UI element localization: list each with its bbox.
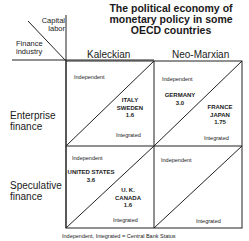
corner-capital-labor-label: Capital labor xyxy=(40,17,65,33)
row-header-speculative-finance: Speculative finance xyxy=(10,180,62,202)
cell-label-integrated: Integrated xyxy=(204,135,229,141)
country-value: 1.6 xyxy=(110,112,150,120)
country-value: 1.75 xyxy=(200,119,240,127)
column-header-kaleckian: Kaleckian xyxy=(87,49,130,60)
corner-text: industry xyxy=(16,48,43,56)
row-text: Speculative xyxy=(10,180,62,191)
country-name: UNITED STATES xyxy=(64,169,118,177)
cell-label-integrated: Integrated xyxy=(113,217,138,223)
countries-united-states: UNITED STATES 3.6 xyxy=(64,169,118,184)
country-value: 3.6 xyxy=(64,177,118,185)
countries-italy-sweden: ITALY SWEDEN 1.6 xyxy=(110,97,150,120)
cell-label-independent: Independent xyxy=(161,157,192,163)
row-header-enterprise-finance: Enterprise finance xyxy=(10,110,56,132)
country-name: GERMANY xyxy=(160,92,200,100)
corner-finance-industry-label: Finance industry xyxy=(16,40,43,56)
cell-label-independent: Independent xyxy=(162,76,193,82)
countries-france-japan: FRANCE JAPAN 1.75 xyxy=(200,104,240,127)
cell-label-integrated: Integrated xyxy=(116,132,141,138)
column-header-neo-marxian: Neo-Marxian xyxy=(172,49,229,60)
country-name: SWEDEN xyxy=(110,105,150,113)
cell-label-independent: Independent xyxy=(72,155,103,161)
country-value: 1.6 xyxy=(110,202,146,210)
cell-label-independent: Independent xyxy=(74,74,105,80)
corner-text: labor xyxy=(40,25,65,33)
title-line: OECD countries xyxy=(98,25,244,36)
country-name: CANADA xyxy=(110,195,146,203)
row-text: finance xyxy=(10,121,56,132)
countries-uk-canada: U. K. CANADA 1.6 xyxy=(110,187,146,210)
country-name: ITALY xyxy=(110,97,150,105)
row-text: Enterprise xyxy=(10,110,56,121)
row-text: finance xyxy=(10,191,62,202)
diagram-title: The political economy of monetary policy… xyxy=(98,3,244,36)
country-name: FRANCE xyxy=(200,104,240,112)
country-name: JAPAN xyxy=(200,112,240,120)
cell-label-integrated: Integrated xyxy=(196,218,221,224)
countries-germany: GERMANY 3.0 xyxy=(160,92,200,107)
country-value: 3.0 xyxy=(160,100,200,108)
country-name: U. K. xyxy=(110,187,146,195)
footer-note: Independent, Integrated = Central Bank S… xyxy=(62,233,176,239)
